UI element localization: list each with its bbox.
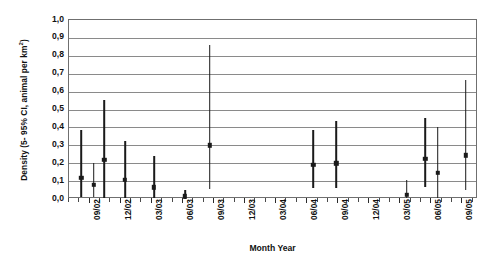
y-axis-title-main: Density (5- 95% CI, animal per km [19,46,29,181]
confidence-interval-bar [153,156,155,198]
data-point-marker [79,175,83,179]
data-point-marker [463,153,467,157]
y-axis-tick-label: 0,9 [38,32,64,41]
x-axis-minor-tick [451,198,452,202]
x-axis-tick-label: 09/05 [465,199,474,239]
x-axis-minor-tick [234,198,235,202]
y-axis-tick-label: 0,2 [38,158,64,167]
x-axis-major-tick [461,198,462,203]
data-point-marker [152,185,156,189]
x-axis-tick-label: 06/03 [186,199,195,239]
data-point-marker [102,157,106,161]
x-axis-major-tick [182,198,183,203]
gridline [69,127,476,128]
x-axis-minor-tick [109,198,110,202]
y-axis-title: Density (5- 95% CI, animal per km2) [14,10,28,210]
gridline [69,110,476,111]
x-axis-minor-tick [172,198,173,202]
x-axis-major-tick [213,198,214,203]
x-axis-tick-label: 03/03 [155,199,164,239]
x-axis-tick-label: 12/03 [248,199,257,239]
confidence-interval-bar [209,45,211,189]
x-axis-major-tick [275,198,276,203]
x-axis-minor-tick [327,198,328,202]
y-axis-tick-label: 0,4 [38,122,64,131]
confidence-interval-bar [93,163,95,197]
x-axis-major-tick [120,198,121,203]
confidence-interval-bar [424,118,426,188]
x-axis-tick-label: 09/02 [93,199,102,239]
y-axis-tick-labels: 1,00,90,80,70,60,50,40,30,20,10,0 [36,0,64,267]
x-axis-minor-tick [68,198,69,202]
gridline [69,74,476,75]
confidence-interval-bar [437,127,439,198]
x-axis-tick-label: 09/04 [341,199,350,239]
x-axis-tick-label: 03/05 [403,199,412,239]
x-axis-minor-tick [389,198,390,202]
data-point-marker [208,143,212,147]
confidence-interval-bar [313,130,315,188]
gridline [69,92,476,93]
x-axis-tick-label: 12/02 [124,199,133,239]
x-axis-tick-label: 06/04 [310,199,319,239]
data-point-marker [423,157,427,161]
x-axis-minor-tick [203,198,204,202]
x-axis-tick-labels: 09/0212/0203/0306/0309/0312/0303/0406/04… [68,203,477,243]
y-axis-tick-label: 0,7 [38,68,64,77]
x-axis-tick-label: 12/04 [372,199,381,239]
x-axis-minor-tick [420,198,421,202]
gridline [69,181,476,182]
plot-area [68,19,477,198]
data-point-marker [311,163,315,167]
data-point-marker [334,161,338,165]
confidence-interval-bar [335,121,337,188]
x-axis-major-tick [430,198,431,203]
gridline [69,38,476,39]
data-point-marker [123,177,127,181]
confidence-interval-bar [81,130,83,197]
confidence-interval-bar [103,100,105,198]
x-axis-major-tick [368,198,369,203]
x-axis-tick-label: 03/04 [279,199,288,239]
x-axis-major-tick [399,198,400,203]
y-axis-title-tail: ) [19,39,29,42]
y-axis-tick-label: 0,6 [38,86,64,95]
x-axis-minor-tick [296,198,297,202]
y-axis-tick-label: 0,3 [38,140,64,149]
x-axis-major-tick [244,198,245,203]
density-chart: Density (5- 95% CI, animal per km2) 1,00… [0,0,499,267]
x-axis-major-tick [151,198,152,203]
gridline [69,56,476,57]
x-axis-minor-tick [265,198,266,202]
x-axis-tick-label: 06/05 [434,199,443,239]
x-axis-minor-tick [358,198,359,202]
confidence-interval-bar [465,80,467,190]
x-axis-major-tick [89,198,90,203]
y-axis-tick-label: 0,1 [38,176,64,185]
gridline [69,145,476,146]
y-axis-title-exponent: 2 [18,42,24,45]
data-point-marker [92,182,96,186]
x-axis-tick-label: 09/03 [217,199,226,239]
y-axis-tick-label: 0,5 [38,104,64,113]
confidence-interval-bar [124,141,126,198]
y-axis-tick-label: 1,0 [38,15,64,24]
y-axis-tick-label: 0,8 [38,50,64,59]
gridline [69,163,476,164]
x-axis-minor-tick [78,198,79,202]
x-axis-major-tick [337,198,338,203]
x-axis-title: Month Year [68,243,477,253]
x-axis-minor-tick [140,198,141,202]
data-point-marker [404,192,408,196]
x-axis-major-tick [306,198,307,203]
y-axis-tick-label: 0,0 [38,194,64,203]
data-point-marker [435,171,439,175]
